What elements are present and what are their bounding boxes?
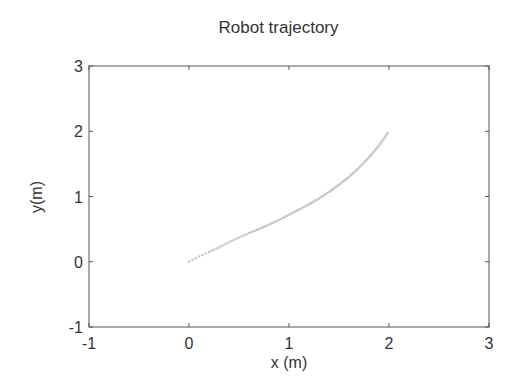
data-point [194, 257, 197, 260]
axes-box [89, 66, 489, 327]
data-point [223, 243, 226, 246]
y-tick-label: 3 [74, 58, 83, 75]
data-point [188, 260, 191, 263]
data-point [240, 235, 243, 238]
y-axis-label: y(m) [28, 181, 45, 213]
x-tick-label: 1 [285, 335, 294, 352]
data-point [220, 245, 223, 248]
x-tick-label: 3 [485, 335, 494, 352]
data-point [210, 250, 213, 253]
data-point [230, 240, 233, 243]
x-tick-label: 0 [185, 335, 194, 352]
data-point [233, 239, 236, 242]
data-point [243, 234, 246, 237]
data-point [198, 255, 201, 258]
y-tick-label: 0 [74, 254, 83, 271]
x-axis-label: x (m) [271, 354, 307, 371]
x-tick-label: 2 [385, 335, 394, 352]
data-point [225, 242, 228, 245]
data-point [215, 247, 218, 250]
plot-area: -10123-10123 x (m) y(m) [0, 0, 519, 392]
data-point [208, 251, 211, 254]
data-point [191, 259, 194, 262]
data-point [235, 237, 238, 240]
data-point [201, 254, 204, 257]
data-point [218, 246, 221, 249]
data-point [238, 236, 241, 239]
data-point [386, 132, 389, 135]
data-point [228, 241, 231, 244]
data-point [213, 248, 216, 251]
y-tick-label: 1 [74, 189, 83, 206]
data-point [204, 252, 207, 255]
y-tick-label: 2 [74, 123, 83, 140]
data-point [245, 233, 248, 236]
x-tick-label: -1 [82, 335, 96, 352]
y-tick-label: -1 [69, 319, 83, 336]
